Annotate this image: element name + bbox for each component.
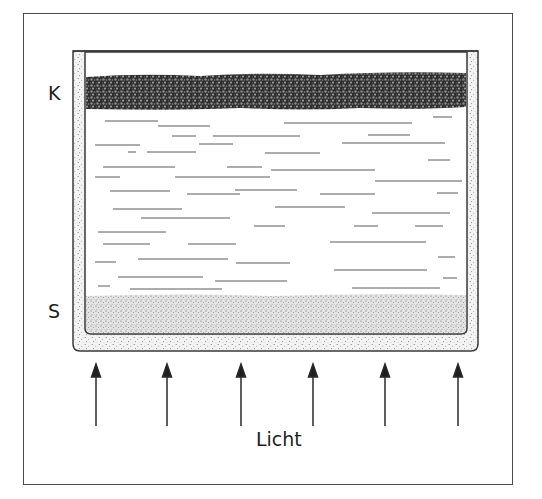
label-licht: Licht (256, 430, 302, 449)
label-k: K (48, 84, 60, 103)
sand-layer-s (86, 294, 466, 333)
arrow-up-icon (92, 364, 101, 426)
arrow-up-icon (309, 364, 318, 426)
light-arrows (92, 364, 463, 426)
arrow-up-icon (454, 364, 463, 426)
label-s: S (48, 302, 60, 321)
arrow-up-icon (163, 364, 172, 426)
arrow-up-icon (381, 364, 390, 426)
pebble-layer-k (86, 72, 466, 109)
container-diagram (0, 0, 542, 499)
arrow-up-icon (237, 364, 246, 426)
